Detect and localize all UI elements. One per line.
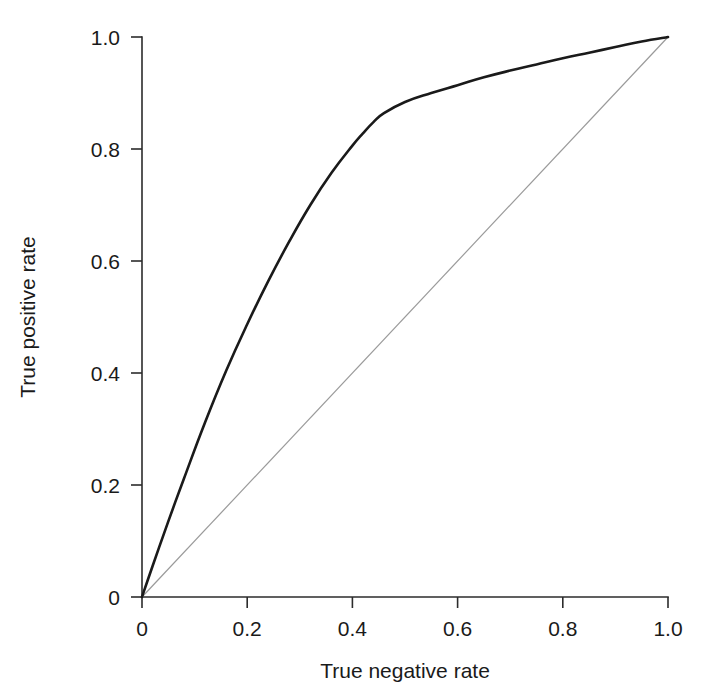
y-axis-ticks: 00.20.40.60.81.0 — [91, 26, 142, 609]
y-tick-label: 0.6 — [91, 250, 120, 273]
y-tick-label: 0 — [108, 586, 120, 609]
chance-diagonal-line — [142, 37, 668, 597]
y-axis-title: True positive rate — [16, 236, 39, 397]
x-tick-label: 0.6 — [443, 617, 472, 640]
x-tick-label: 1.0 — [653, 617, 682, 640]
roc-plot-canvas: 00.20.40.60.81.0 00.20.40.60.81.0 True n… — [0, 0, 705, 697]
x-axis-title: True negative rate — [320, 659, 490, 682]
y-tick-label: 1.0 — [91, 26, 120, 49]
y-tick-label: 0.8 — [91, 138, 120, 161]
x-tick-label: 0.8 — [548, 617, 577, 640]
roc-chart-figure: 00.20.40.60.81.0 00.20.40.60.81.0 True n… — [0, 0, 705, 697]
x-tick-label: 0.2 — [233, 617, 262, 640]
y-tick-label: 0.4 — [91, 362, 121, 385]
x-tick-label: 0.4 — [338, 617, 368, 640]
x-tick-label: 0 — [136, 617, 148, 640]
x-axis-ticks: 00.20.40.60.81.0 — [136, 597, 682, 640]
y-tick-label: 0.2 — [91, 474, 120, 497]
